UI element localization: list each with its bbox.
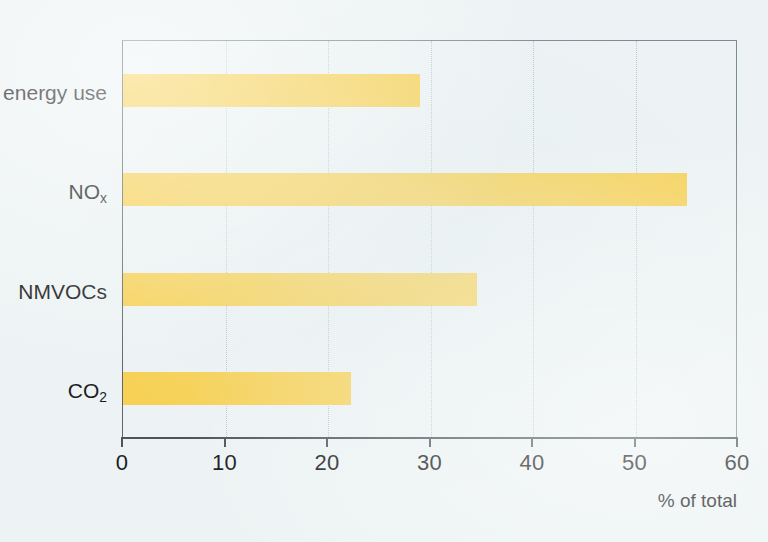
category-label-text: energy use: [3, 81, 107, 104]
x-tick-0: [121, 437, 123, 447]
x-tick-label-30: 30: [400, 450, 460, 476]
bar-nox: [123, 173, 687, 206]
x-tick-label-0: 0: [92, 450, 152, 476]
category-label-nox: NOx: [0, 175, 107, 208]
x-tick-label-40: 40: [502, 450, 562, 476]
plot-area: [122, 40, 737, 437]
category-label-text: CO: [68, 379, 100, 402]
category-label-energy-use: energy use: [0, 76, 107, 109]
x-tick-label-60: 60: [707, 450, 767, 476]
category-label-subscript: 2: [99, 389, 107, 405]
bar-chart-figure: 0102030405060 energy useNOxNMVOCsCO2 % o…: [0, 0, 768, 542]
bar-row: [123, 273, 738, 306]
bar-nmvocs: [123, 273, 477, 306]
x-tick-10: [224, 437, 226, 447]
category-label-subscript: x: [100, 190, 107, 206]
x-tick-20: [326, 437, 328, 447]
category-label-text: NMVOCs: [18, 280, 107, 303]
category-label-co2: CO2: [0, 374, 107, 407]
x-tick-label-20: 20: [297, 450, 357, 476]
bar-row: [123, 372, 738, 405]
bar-co2: [123, 372, 351, 405]
x-tick-60: [736, 437, 738, 447]
x-tick-50: [634, 437, 636, 447]
bar-energy-use: [123, 74, 420, 107]
x-tick-label-50: 50: [605, 450, 665, 476]
x-axis-title: % of total: [658, 490, 737, 512]
x-tick-label-10: 10: [195, 450, 255, 476]
category-label-nmvocs: NMVOCs: [0, 275, 107, 308]
x-tick-30: [429, 437, 431, 447]
bar-row: [123, 173, 738, 206]
category-label-text: NO: [69, 180, 101, 203]
bar-row: [123, 74, 738, 107]
x-tick-40: [531, 437, 533, 447]
